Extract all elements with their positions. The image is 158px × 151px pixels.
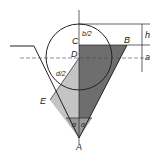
- label-b-half: b/2: [82, 30, 92, 37]
- label-d: D: [71, 49, 78, 59]
- label-a-dim: a: [145, 52, 150, 62]
- label-a: A: [75, 142, 82, 151]
- label-e: E: [40, 96, 47, 106]
- label-d-half: d/2: [56, 70, 66, 77]
- label-c: C: [72, 36, 79, 46]
- label-h: h: [145, 30, 150, 40]
- groove-diagram: C D B E A b/2 d/2 h a α α: [0, 0, 158, 151]
- label-b: B: [124, 35, 130, 45]
